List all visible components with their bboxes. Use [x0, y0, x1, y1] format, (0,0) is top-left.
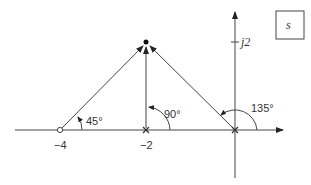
zero-marker: [57, 127, 62, 132]
tick-label-minus-2: −2: [140, 139, 153, 151]
vector-from-pole-origin: [150, 46, 233, 128]
j2-label: j2: [239, 35, 250, 49]
angle-label-90: 90°: [164, 108, 181, 120]
s-plane-label: s: [286, 18, 291, 32]
angle-arc-45: [78, 117, 82, 130]
tick-label-minus-4: −4: [54, 139, 67, 151]
angle-label-135: 135°: [251, 102, 274, 114]
test-point: [144, 40, 149, 45]
s-plane-diagram: j2 s −4 −2 45° 90° 135°: [0, 0, 311, 185]
angle-label-45: 45°: [86, 115, 103, 127]
